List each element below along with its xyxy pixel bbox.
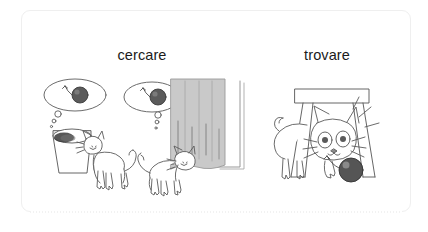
cat-icon (274, 97, 379, 179)
illustration-card: cercare trovare (21, 10, 411, 212)
thought-bubble-icon (44, 79, 106, 128)
scene-cat-bucket (28, 73, 140, 198)
scene-cat-curtain (130, 69, 252, 199)
panel-title-trovare: trovare (262, 47, 392, 63)
scene-cat-table (267, 73, 397, 198)
cat-icon (138, 146, 195, 196)
panel-title-cercare: cercare (77, 47, 207, 63)
